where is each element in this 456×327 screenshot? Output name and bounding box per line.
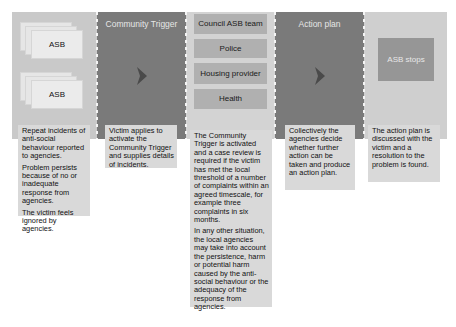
asb-document: ASB <box>31 80 83 109</box>
description-text: Problem persists because of no or inadeq… <box>22 164 87 206</box>
panel-title: Community Trigger <box>97 19 186 29</box>
divider <box>274 12 276 139</box>
asb-document: ASB <box>31 30 83 59</box>
description-community-trigger: Victim applies to activate the Community… <box>105 125 177 168</box>
panel-agencies: Council ASB team Police Housing provider… <box>186 12 275 139</box>
asb-label: ASB <box>49 40 65 49</box>
description-action-plan: Collectively the agencies decide whether… <box>285 125 355 190</box>
agency-health: Health <box>194 89 267 109</box>
panel-action-plan: Action plan <box>275 12 364 139</box>
agency-housing-provider: Housing provider <box>194 63 267 84</box>
panel-community-trigger: Community Trigger <box>97 12 186 139</box>
description-text: Victim applies to activate the Community… <box>109 127 174 169</box>
panel-title: Action plan <box>275 19 364 29</box>
description-asb-incidents: Repeat incidents of anti-social behaviou… <box>18 125 90 216</box>
divider <box>363 12 365 139</box>
divider <box>96 12 98 139</box>
chevron-right-icon <box>314 66 326 86</box>
asb-stops-box: ASB stops <box>378 38 434 81</box>
divider <box>185 12 187 139</box>
description-text: The action plan is discussed with the vi… <box>372 127 437 169</box>
panel-asb-stops: ASB stops <box>364 12 447 139</box>
chevron-right-icon <box>136 66 148 86</box>
panel-asb-incidents: ASB ASB <box>12 12 97 139</box>
description-text: Repeat incidents of anti-social behaviou… <box>22 127 87 161</box>
description-asb-stops: The action plan is discussed with the vi… <box>368 125 440 182</box>
description-text: In any other situation, the local agenci… <box>194 227 269 311</box>
description-text: The Community Trigger is activated and a… <box>194 132 269 224</box>
agency-police: Police <box>194 39 267 58</box>
agency-council-asb-team: Council ASB team <box>194 14 267 34</box>
asb-label: ASB <box>49 90 65 99</box>
description-text: Collectively the agencies decide whether… <box>289 127 352 177</box>
description-agencies: The Community Trigger is activated and a… <box>190 130 272 307</box>
description-text: The victim feels ignored by agencies. <box>22 209 87 234</box>
